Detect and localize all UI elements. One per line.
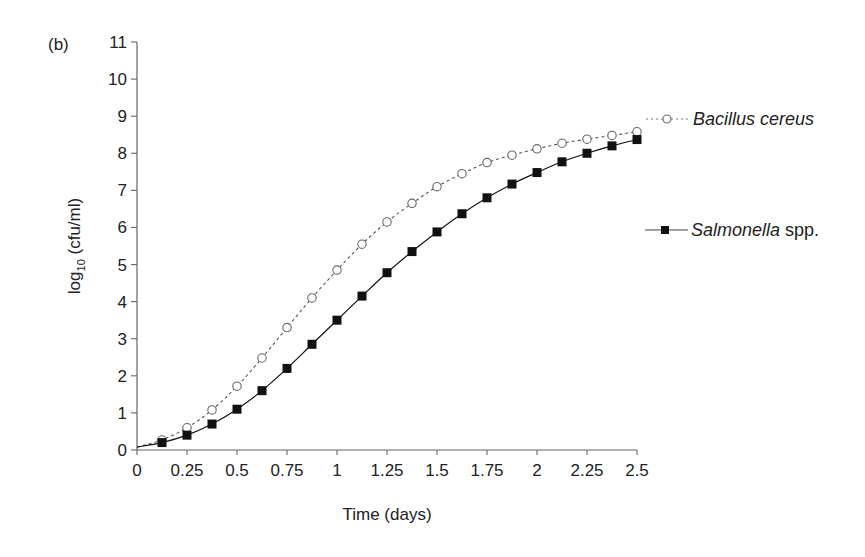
- data-point-circle: [358, 240, 366, 248]
- y-tick-label: 6: [118, 218, 127, 237]
- data-point-square: [433, 227, 442, 236]
- series-salmonella: [137, 135, 642, 447]
- filled-square-marker-icon: [661, 226, 669, 234]
- y-tick-label: 2: [118, 367, 127, 386]
- data-point-circle: [433, 182, 441, 190]
- data-point-square: [633, 135, 642, 144]
- y-axis-title: log10 (cfu/ml): [65, 198, 87, 294]
- legend-label-bacillus: Bacillus cereus: [693, 109, 814, 129]
- x-tick-label: 2: [532, 461, 541, 480]
- data-point-square: [233, 405, 242, 414]
- data-point-circle: [308, 294, 316, 302]
- data-point-square: [308, 340, 317, 349]
- legend: Bacillus cereus Salmonella spp.: [645, 109, 819, 240]
- y-tick-label: 11: [109, 33, 127, 52]
- y-tick-label: 1: [118, 404, 127, 423]
- y-tick-label: 5: [118, 256, 127, 275]
- data-point-square: [158, 438, 167, 447]
- y-tick-label: 4: [118, 293, 127, 312]
- data-point-square: [608, 141, 617, 150]
- data-point-square: [183, 431, 192, 440]
- data-point-square: [383, 268, 392, 277]
- x-tick-label: 2.5: [625, 461, 649, 480]
- x-tick-label: 0: [132, 461, 141, 480]
- data-point-circle: [258, 354, 266, 362]
- data-point-circle: [283, 323, 291, 331]
- growth-curve-chart: (b) 01234567891011 00.250.50.7511.251.51…: [0, 0, 865, 557]
- data-point-square: [208, 420, 217, 429]
- x-tick-label: 1: [332, 461, 341, 480]
- x-axis-title: Time (days): [342, 505, 431, 524]
- data-point-square: [408, 247, 417, 256]
- x-tick-label: 1.5: [425, 461, 449, 480]
- y-axis-ticks: 01234567891011: [108, 33, 137, 460]
- data-point-circle: [408, 199, 416, 207]
- data-point-square: [508, 180, 517, 189]
- data-point-circle: [558, 139, 566, 147]
- data-point-circle: [383, 218, 391, 226]
- x-axis-ticks: 00.250.50.7511.251.51.7522.252.5: [132, 450, 649, 480]
- data-point-circle: [508, 151, 516, 159]
- series-line: [137, 140, 637, 447]
- legend-item-salmonella: Salmonella spp.: [645, 220, 819, 240]
- series-layer: [137, 128, 642, 448]
- series-bacillus: [137, 128, 641, 447]
- data-point-square: [533, 168, 542, 177]
- y-tick-label: 9: [118, 107, 127, 126]
- data-point-square: [558, 157, 567, 166]
- x-tick-label: 0.75: [270, 461, 303, 480]
- data-point-square: [333, 316, 342, 325]
- x-tick-label: 1.25: [370, 461, 403, 480]
- axes: 01234567891011 00.250.50.7511.251.51.752…: [108, 33, 649, 480]
- data-point-circle: [208, 406, 216, 414]
- y-tick-label: 0: [118, 441, 127, 460]
- data-point-circle: [533, 145, 541, 153]
- x-tick-label: 0.5: [225, 461, 249, 480]
- data-point-circle: [233, 382, 241, 390]
- legend-label-salmonella: Salmonella spp.: [691, 220, 819, 240]
- data-point-circle: [333, 266, 341, 274]
- data-point-circle: [458, 169, 466, 177]
- x-tick-label: 2.25: [570, 461, 603, 480]
- legend-item-bacillus: Bacillus cereus: [646, 109, 814, 129]
- panel-label: (b): [48, 35, 69, 54]
- data-point-square: [458, 209, 467, 218]
- y-tick-label: 7: [118, 181, 127, 200]
- x-tick-label: 1.75: [470, 461, 503, 480]
- y-tick-label: 10: [108, 70, 127, 89]
- data-point-square: [483, 193, 492, 202]
- data-point-circle: [608, 131, 616, 139]
- data-point-circle: [583, 135, 591, 143]
- data-point-circle: [483, 158, 491, 166]
- data-point-square: [583, 149, 592, 158]
- y-tick-label: 3: [118, 330, 127, 349]
- x-tick-label: 0.25: [170, 461, 203, 480]
- data-point-circle: [633, 128, 641, 136]
- data-point-square: [258, 386, 267, 395]
- data-point-square: [358, 292, 367, 301]
- y-tick-label: 8: [118, 144, 127, 163]
- series-line: [137, 132, 637, 447]
- data-point-square: [283, 364, 292, 373]
- open-circle-marker-icon: [663, 115, 671, 123]
